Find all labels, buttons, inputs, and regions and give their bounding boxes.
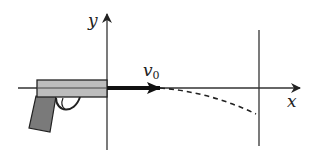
velocity-label-subscript: 0	[153, 69, 160, 82]
x-axis-label: x	[287, 91, 297, 111]
trajectory-curve	[160, 88, 256, 114]
gun-trigger	[62, 98, 65, 109]
velocity-label-v: v	[143, 60, 153, 80]
gun-trigger-guard	[56, 97, 80, 110]
gun-grip	[29, 96, 56, 132]
projectile-diagram: y x v0	[0, 0, 320, 152]
velocity-label: v0	[143, 60, 160, 82]
y-axis-label: y	[87, 10, 98, 30]
